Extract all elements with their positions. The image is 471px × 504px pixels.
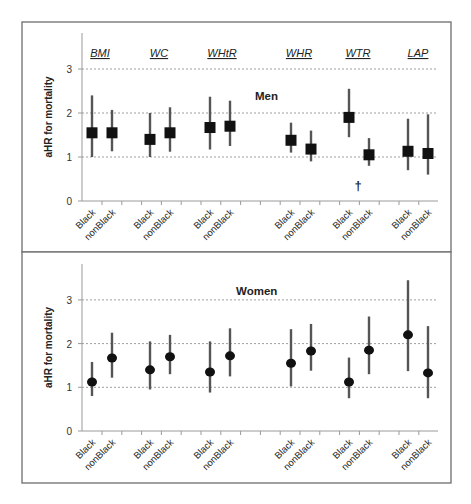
- point-marker-circle: [165, 352, 175, 361]
- point-marker-square: [403, 146, 414, 157]
- point-marker-circle: [306, 347, 316, 356]
- point-marker-circle: [107, 354, 117, 363]
- y-tick-label: 3: [66, 295, 72, 306]
- y-tick-label: 1: [66, 152, 72, 163]
- y-tick-label: 1: [66, 382, 72, 393]
- y-axis-label: aHR for mortality: [43, 307, 54, 389]
- point-marker-square: [145, 134, 156, 145]
- y-axis-label: aHR for mortality: [43, 76, 54, 158]
- group-label-wc: WC: [150, 47, 168, 59]
- panel-title: Men: [255, 90, 278, 102]
- point-marker-square: [306, 144, 317, 155]
- point-marker-square: [107, 127, 118, 138]
- group-label-bmi: BMI: [90, 47, 110, 59]
- point-marker-square: [344, 112, 355, 123]
- point-marker-circle: [87, 378, 97, 387]
- y-tick-label: 0: [66, 196, 72, 207]
- significance-dagger: †: [354, 178, 361, 193]
- y-tick-label: 2: [66, 108, 72, 119]
- point-marker-square: [165, 127, 176, 138]
- point-marker-square: [286, 135, 297, 146]
- point-marker-circle: [403, 330, 413, 339]
- point-marker-circle: [205, 368, 215, 377]
- y-tick-label: 2: [66, 339, 72, 350]
- point-marker-square: [364, 149, 375, 160]
- point-marker-square: [87, 127, 98, 138]
- point-marker-square: [205, 122, 216, 133]
- point-marker-square: [423, 148, 434, 159]
- point-marker-circle: [286, 359, 296, 368]
- point-marker-circle: [145, 365, 155, 374]
- point-marker-square: [225, 121, 236, 132]
- group-label-whtr: WHtR: [207, 47, 236, 59]
- y-tick-label: 3: [66, 64, 72, 75]
- point-marker-circle: [364, 346, 374, 355]
- group-label-lap: LAP: [408, 47, 429, 59]
- point-marker-circle: [344, 378, 354, 387]
- point-marker-circle: [423, 368, 433, 377]
- group-label-whr: WHR: [286, 47, 312, 59]
- point-marker-circle: [225, 351, 235, 360]
- y-tick-label: 0: [66, 426, 72, 437]
- group-label-wtr: WTR: [345, 47, 370, 59]
- panel-title: Women: [236, 285, 277, 297]
- forest-plot-chart: 0123aHR for mortalityBMIWCWHtRWHRWTRLAPM…: [0, 0, 471, 504]
